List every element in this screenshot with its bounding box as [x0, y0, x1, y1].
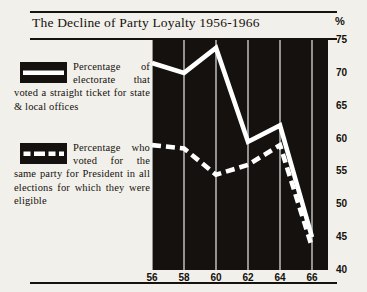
y-tick-label-40: 40	[336, 264, 362, 275]
dashed-line-swatch-icon	[20, 143, 67, 164]
series-line-straight-ticket	[152, 48, 312, 237]
chart-page: The Decline of Party Loyalty 1956-1966 %…	[0, 0, 367, 292]
legend-item-straight-ticket: Percentage of electorate that voted a st…	[14, 60, 150, 113]
y-tick-label-45: 45	[336, 231, 362, 242]
y-tick-label-60: 60	[336, 133, 362, 144]
solid-line-swatch-icon	[20, 62, 67, 83]
y-tick-label-65: 65	[336, 100, 362, 111]
bottom-rule	[30, 282, 337, 284]
page-title: The Decline of Party Loyalty 1956-1966	[32, 15, 260, 31]
legend-item-same-party-president: Percentage who voted for the same party …	[14, 141, 150, 207]
percent-axis-symbol: %	[335, 15, 345, 27]
y-tick-label-70: 70	[336, 67, 362, 78]
top-rule	[30, 11, 337, 13]
y-tick-label-75: 75	[336, 34, 362, 45]
y-tick-label-50: 50	[336, 198, 362, 209]
y-tick-label-55: 55	[336, 165, 362, 176]
chart-canvas	[152, 40, 328, 270]
plot-area	[152, 40, 328, 270]
